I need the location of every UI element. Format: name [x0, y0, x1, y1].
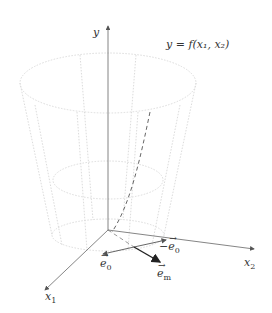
x2-axis-label: x2 [244, 256, 255, 271]
x2-axis [108, 230, 254, 249]
vector-arrow-icon: → [101, 250, 109, 260]
em-label: →em [157, 267, 171, 282]
x1-axis [45, 230, 108, 290]
vector-arrow-icon: → [169, 233, 177, 243]
cone-diagram [0, 0, 272, 313]
e0-label: →e0 [100, 257, 112, 272]
vector-arrow-icon: → [158, 260, 166, 270]
minus-e0-label: −→e0 [159, 240, 180, 255]
x1-axis-label: x1 [45, 290, 56, 305]
vector-em [134, 247, 160, 262]
function-label: y = f(x₁, x₂) [166, 38, 229, 51]
y-axis-label: y [93, 26, 99, 39]
